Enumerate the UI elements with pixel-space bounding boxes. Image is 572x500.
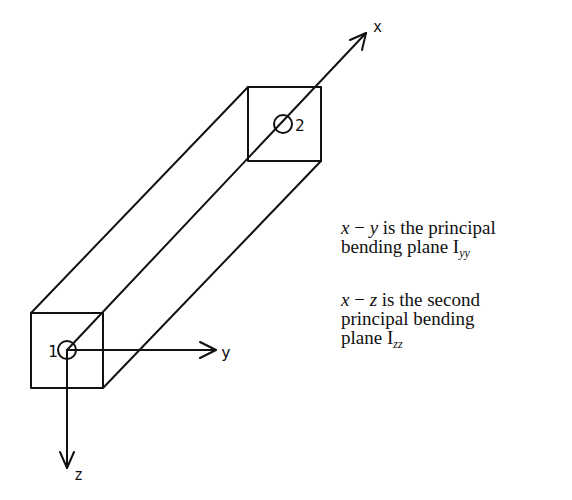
x-axis	[67, 33, 366, 350]
node-2-label: 2	[295, 116, 305, 135]
caption-text: bending plane I	[341, 236, 459, 257]
y-axis-label: y	[221, 343, 231, 362]
x-axis-label: x	[373, 18, 382, 36]
caption-xy-plane: x − y is the principal bending plane Iyy	[341, 218, 496, 256]
caption-xz-line-1: x − z is the second	[341, 290, 480, 309]
caption-xz-plane: x − z is the second principal bending pl…	[341, 290, 480, 347]
var-y: y	[370, 217, 378, 238]
caption-text: is the principal	[378, 217, 496, 238]
caption-xz-line-3: plane Izz	[341, 328, 480, 347]
node-2-circle	[274, 115, 292, 133]
caption-text: plane I	[341, 327, 393, 348]
caption-text: is the second	[377, 289, 480, 310]
dash: −	[349, 289, 369, 310]
caption-xz-line-2: principal bending	[341, 309, 480, 328]
var-z: z	[370, 289, 377, 310]
caption-text: principal bending	[341, 308, 475, 329]
node-1-label: 1	[48, 342, 58, 361]
caption-xy-line-2: bending plane Iyy	[341, 237, 496, 256]
top-left-edge	[31, 87, 248, 313]
caption-xy-line-1: x − y is the principal	[341, 218, 496, 237]
dash: −	[349, 217, 369, 238]
subscript-zz: zz	[393, 337, 402, 351]
subscript-yy: yy	[459, 246, 470, 260]
z-axis-label: z	[74, 466, 83, 484]
back-face	[248, 87, 321, 161]
